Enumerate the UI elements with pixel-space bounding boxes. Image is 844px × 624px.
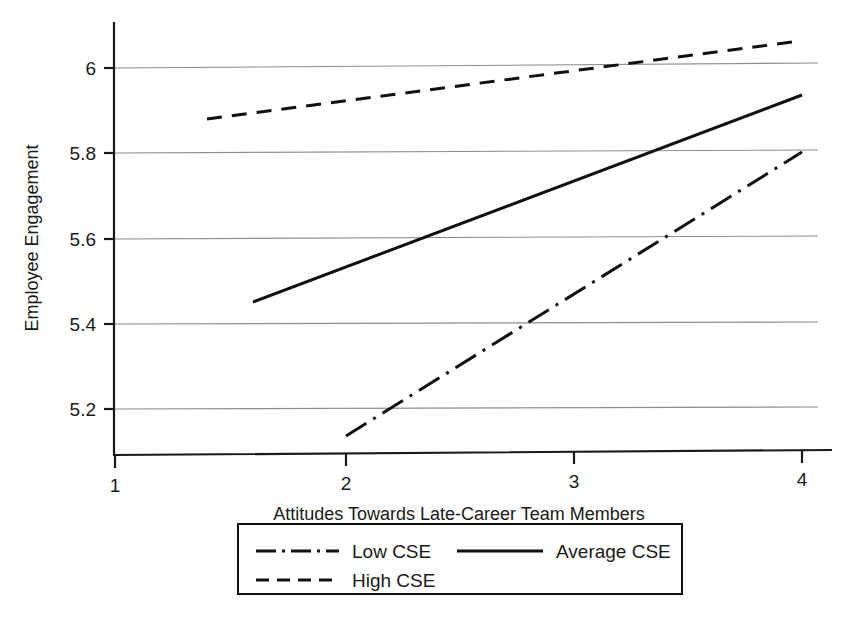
- gridline-5-6: [115, 236, 818, 239]
- y-tick-label: 5.4: [70, 314, 97, 335]
- y-tick-label: 6: [85, 58, 96, 79]
- legend-label-average-cse: Average CSE: [556, 541, 671, 562]
- high-cse-line: [207, 41, 800, 119]
- gridlines: [115, 63, 818, 409]
- legend-label-high-cse: High CSE: [352, 570, 435, 591]
- y-tick-label: 5.8: [70, 143, 96, 164]
- series-high-cse: [207, 41, 800, 119]
- x-tick-label: 3: [569, 471, 580, 492]
- y-tick-label: 5.2: [70, 399, 96, 420]
- legend-label-low-cse: Low CSE: [352, 541, 431, 562]
- chart-container: 6 5.8 5.6 5.4 5.2 1 2 3 4 Employee Engag…: [0, 0, 844, 624]
- axes: [104, 22, 832, 468]
- line-chart: 6 5.8 5.6 5.4 5.2 1 2 3 4 Employee Engag…: [0, 0, 844, 624]
- x-tick-labels: 1 2 3 4: [110, 469, 808, 496]
- x-tick-label: 1: [110, 475, 121, 496]
- y-tick-labels: 6 5.8 5.6 5.4 5.2: [70, 58, 97, 420]
- gridline-6: [115, 63, 818, 68]
- x-axis-title: Attitudes Towards Late-Career Team Membe…: [273, 504, 645, 524]
- low-cse-line: [346, 152, 802, 436]
- y-axis-title: Employee Engagement: [22, 144, 42, 331]
- chart-legend: Low CSE Average CSE High CSE: [238, 524, 682, 594]
- series-low-cse: [346, 152, 802, 436]
- average-cse-line: [253, 95, 802, 302]
- x-tick-label: 2: [341, 473, 352, 494]
- y-tick-label: 5.6: [70, 229, 96, 250]
- series-average-cse: [253, 95, 802, 302]
- gridline-5-4: [115, 322, 818, 324]
- x-tick-label: 4: [797, 469, 808, 490]
- gridline-5-2: [115, 407, 818, 409]
- gridline-5-8: [115, 150, 818, 153]
